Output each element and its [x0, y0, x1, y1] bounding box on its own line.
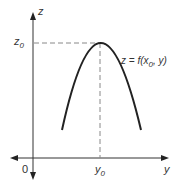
y-axis-left-arrow-icon [10, 155, 18, 161]
curve-label-suffix: , y) [153, 55, 167, 66]
y-axis-right-arrow-icon [161, 155, 169, 161]
origin-label: 0 [22, 164, 28, 175]
curve-label-prefix: z = f(x [121, 55, 149, 66]
y0-base: y [95, 163, 101, 175]
z-axis-down-arrow-icon [30, 172, 36, 180]
z-axis-label: z [38, 6, 44, 17]
z-axis-up-arrow-icon [30, 12, 36, 20]
y-axis-label: y [164, 164, 170, 175]
y0-label: y0 [95, 164, 105, 175]
curve-label-sub: 0 [149, 60, 153, 69]
z0-base: z [14, 35, 20, 47]
y0-sub: 0 [101, 169, 105, 178]
z0-label: z0 [14, 36, 24, 47]
z0-sub: 0 [20, 41, 24, 50]
diagram-canvas [0, 0, 180, 188]
curve-label: z = f(x0, y) [121, 56, 167, 66]
